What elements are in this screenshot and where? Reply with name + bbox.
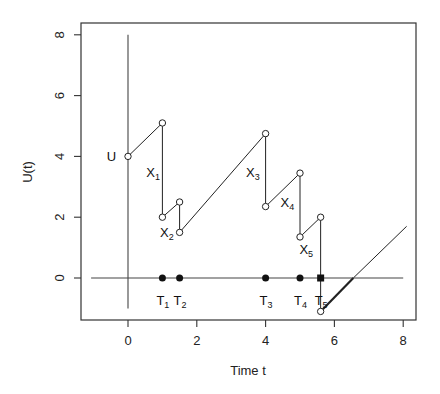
x-tick-label: 2 [193,333,200,348]
event-time-label: T1 [156,293,169,310]
open-circle-marker [159,120,165,126]
open-circle-marker [262,203,268,209]
annotation-label: U [107,149,116,164]
open-circle-marker [317,214,323,220]
event-time-label: T2 [174,293,187,310]
event-time-markers: T1T2T3T4T5 [156,275,327,311]
point-markers [125,120,324,315]
x-axis: 02468 [124,320,406,348]
event-time-label: T3 [260,293,273,310]
claim-time-marker [297,275,304,282]
data-series [128,123,407,311]
claim-time-marker [159,275,166,282]
y-tick-label: 0 [52,274,67,281]
ruin-process-chart: 02468 02468 Time t U(t) T1T2T3T4T5 UX1X2… [0,0,440,394]
open-circle-marker [125,153,131,159]
ruin-time-marker [317,275,324,282]
open-circle-marker [176,229,182,235]
claim-time-marker [262,275,269,282]
y-axis-title: U(t) [20,161,35,183]
x-tick-label: 0 [124,333,131,348]
x-axis-title: Time t [230,363,266,378]
x-tick-label: 8 [400,333,407,348]
annotation-label: X5 [299,242,313,259]
claim-time-marker [176,275,183,282]
open-circle-marker [262,130,268,136]
event-time-label: T5 [315,293,328,310]
x-tick-label: 4 [262,333,269,348]
event-time-label: T4 [294,293,307,310]
series-line [353,226,406,278]
open-circle-marker [297,170,303,176]
y-tick-label: 6 [52,92,67,99]
open-circle-marker [297,234,303,240]
open-circle-marker [176,199,182,205]
annotation-label: X3 [246,165,260,182]
series-line [128,123,321,311]
annotation-label: X2 [160,225,174,242]
y-tick-label: 8 [52,31,67,38]
annotation-label: X4 [281,195,295,212]
annotation-label: X1 [146,165,160,182]
y-axis: 02468 [52,31,81,281]
x-tick-label: 6 [331,333,338,348]
y-tick-label: 2 [52,214,67,221]
annotations: UX1X2X3X4X5 [107,149,313,259]
open-circle-marker [159,214,165,220]
y-tick-label: 4 [52,153,67,160]
